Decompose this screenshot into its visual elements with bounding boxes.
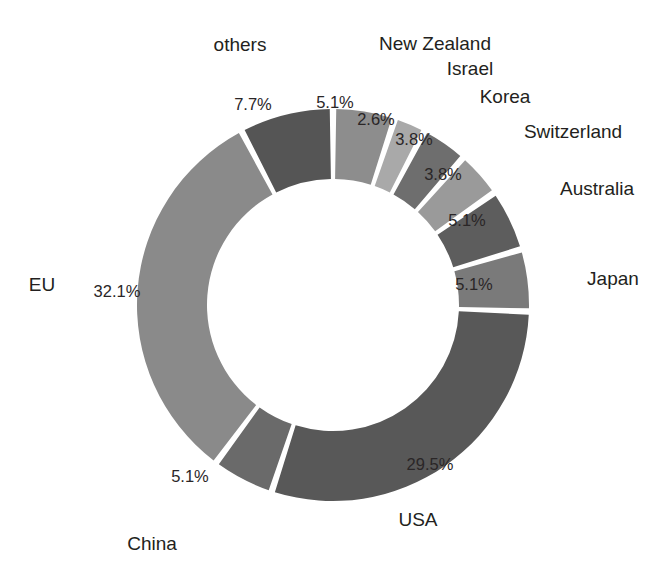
slice-category-label-china: China (127, 533, 177, 555)
slice-category-label-switzerland: Switzerland (524, 121, 622, 143)
slice-category-label-korea: Korea (480, 86, 531, 108)
slice-percent-label-korea: 3.8% (395, 130, 433, 148)
slice-percent-label-eu: 32.1% (94, 282, 141, 300)
slice-category-label-australia: Australia (560, 178, 634, 200)
donut-chart-figure: 5.1%2.6%3.8%3.8%5.1%5.1%29.5%5.1%32.1%7.… (0, 0, 670, 582)
donut-chart-svg: 5.1%2.6%3.8%3.8%5.1%5.1%29.5%5.1%32.1%7.… (0, 0, 670, 582)
slice-category-label-usa: USA (398, 509, 437, 531)
slice-percent-label-usa: 29.5% (407, 455, 454, 473)
slice-percent-label-japan: 5.1% (455, 275, 493, 293)
slice-percent-label-israel: 2.6% (357, 110, 395, 128)
donut-slice-group (137, 109, 529, 501)
slice-category-label-others: others (214, 34, 267, 56)
slice-percent-label-australia: 5.1% (448, 211, 486, 229)
slice-percent-label-china: 5.1% (171, 467, 209, 485)
slice-category-label-new-zealand: New Zealand (379, 33, 491, 55)
donut-slice-eu[interactable] (137, 133, 272, 460)
slice-percent-label-others: 7.7% (234, 95, 272, 113)
slice-category-label-japan: Japan (587, 268, 639, 290)
slice-percent-label-new-zealand: 5.1% (316, 93, 354, 111)
slice-category-label-eu: EU (29, 274, 55, 296)
donut-slice-usa[interactable] (275, 311, 529, 501)
slice-percent-label-switzerland: 3.8% (424, 165, 462, 183)
slice-category-label-israel: Israel (447, 58, 493, 80)
